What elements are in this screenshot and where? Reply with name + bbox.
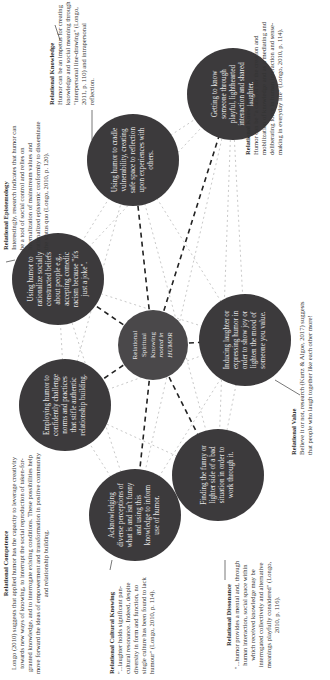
annotation-knowledge: Relational Knowledge Humor can be an imp… — [48, 0, 96, 105]
annotation-knowing-title: Relational Knowing — [244, 5, 252, 155]
annotation-competence-title: Relational Competence — [2, 451, 10, 676]
annotation-epistemology: Relational Epistemology Interestingly, r… — [2, 120, 50, 250]
node-employing-text: Employing humor to confidently challenge… — [43, 371, 88, 439]
node-finding-funny: Finding the funny or lighter side of a b… — [172, 429, 264, 521]
annotation-value-title: Relational Value — [290, 295, 298, 455]
annotation-value: Relational Value Believe it or not, rese… — [290, 295, 314, 455]
annotation-cultural: Relational Cultural Knowing "...laughter… — [108, 574, 156, 674]
annotation-dissonance-body: "...humor provides a mental and, through… — [233, 561, 280, 669]
node-vulnerability: Using humor to cradle vulnerability, cre… — [87, 114, 179, 206]
annotation-dissonance-title: Relational Dissonance — [225, 556, 233, 674]
annotation-competence: Relational Competence Longo (2010) sugge… — [2, 451, 50, 676]
node-inducing-laughter: Inducing laughter or expressing humor in… — [199, 294, 291, 386]
annotation-knowledge-body: Humor can be an impetus for creating kno… — [56, 1, 95, 105]
annotation-epistemology-title: Relational Epistemology — [2, 120, 10, 250]
node-vulnerability-text: Using humor to cradle vulnerability, cre… — [111, 126, 156, 194]
node-inducing-laughter-text: Inducing laughter or expressing humor in… — [223, 306, 268, 374]
center-line-3: Knowing — [149, 332, 157, 358]
annotation-dissonance: Relational Dissonance "...humor provides… — [225, 556, 281, 674]
center-line-5: HUMOR — [166, 332, 174, 357]
annotation-cultural-body: "...laughter holds significant pan-cultu… — [116, 577, 155, 674]
annotation-epistemology-body: Interestingly, research indicates that h… — [10, 121, 49, 250]
center-line-1: Relational — [131, 331, 139, 360]
annotation-knowing-body: Humor can be "a catalyst for the creatio… — [252, 22, 283, 155]
annotation-competence-body: Longo (2010) suggests that applied humor… — [10, 453, 49, 674]
center-line-4: rooted in — [157, 332, 165, 357]
node-finding-funny-text: Finding the funny or lighter side of a b… — [200, 441, 236, 509]
node-acknowledging: Acknowledging diverse perceptions of wha… — [89, 469, 181, 561]
annotation-value-body: Believe it or not, research (Kurtz & Alg… — [298, 301, 313, 455]
diagram-canvas: Relational Spiritual Knowing rooted in H… — [0, 0, 330, 680]
node-acknowledging-text: Acknowledging diverse perceptions of wha… — [108, 481, 162, 549]
node-rationalize-text: Using humor to rationalize socially cons… — [27, 245, 90, 313]
center-node: Relational Spiritual Knowing rooted in H… — [118, 310, 188, 380]
node-employing: Employing humor to confidently challenge… — [19, 359, 111, 451]
center-line-2: Spiritual — [140, 333, 148, 357]
annotation-cultural-title: Relational Cultural Knowing — [108, 574, 116, 674]
annotation-knowing-box: Relational Knowing Humor can be "a catal… — [244, 5, 284, 155]
annotation-knowledge-title: Relational Knowledge — [48, 0, 56, 105]
